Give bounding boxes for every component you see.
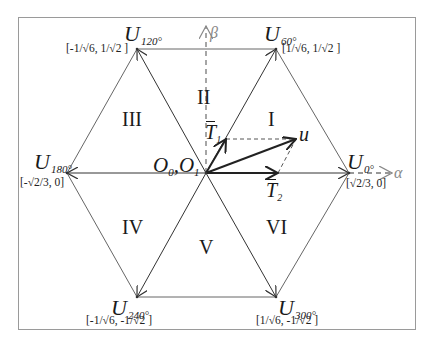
origin-o1-sub: 1 — [194, 166, 200, 178]
coord-u120: [-1/√6, 1/√2 ] — [66, 43, 128, 55]
label-t1: T1 — [205, 122, 221, 145]
t2-symbol: T — [266, 180, 277, 200]
label-u180: U180° — [34, 151, 72, 175]
coord-u180: [-√2/3, 0] — [20, 177, 64, 189]
t1-symbol: T — [205, 122, 216, 142]
label-u120: U120° — [124, 23, 162, 47]
u0-symbol: U — [347, 149, 363, 174]
coord-u240: [-1/√6, -1/√2 ] — [86, 315, 152, 327]
sector-VI: VI — [266, 217, 287, 237]
label-t2: T2 — [266, 180, 282, 203]
sector-III: III — [122, 109, 142, 129]
coord-u0: [√2/3, 0] — [346, 178, 386, 190]
vector-u240 — [137, 173, 206, 297]
sector-V: V — [199, 237, 213, 257]
sector-II: II — [197, 87, 210, 107]
coord-u60: [1/√6, 1/√2 ] — [282, 43, 340, 55]
coord-u300: [1/√6, -1/√2 ] — [256, 315, 318, 327]
beta-axis-label: β — [210, 25, 218, 41]
origin-o1: O — [179, 153, 194, 177]
u60-symbol: U — [264, 21, 280, 46]
t2-subscript: 2 — [277, 192, 282, 203]
sector-IV: IV — [122, 217, 143, 237]
t1-subscript: 1 — [216, 134, 221, 145]
u120-subscript: 120° — [141, 35, 162, 47]
origin-label: O0,O1 — [153, 155, 200, 178]
u180-subscript: 180° — [51, 163, 72, 175]
u0-subscript: 0° — [364, 163, 374, 175]
alpha-axis-label: α — [394, 165, 402, 181]
label-u: u — [299, 124, 309, 144]
label-u0: U0° — [347, 151, 374, 175]
origin-o0: O — [153, 153, 168, 177]
sector-I: I — [268, 109, 275, 129]
u180-symbol: U — [34, 149, 50, 174]
